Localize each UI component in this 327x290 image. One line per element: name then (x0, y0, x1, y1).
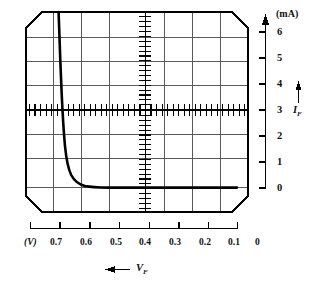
x-axis-quantity-subscript: F (143, 268, 148, 276)
y-axis-quantity-subscript: F (297, 110, 302, 118)
x-tick-label-0.5: 0.5 (110, 237, 122, 247)
y-tick-label-3: 3 (277, 105, 282, 115)
figure-root: (mA) 6 5 4 3 2 1 0 IF (V) 0.7 0.6 0.5 0.… (0, 0, 327, 290)
x-tick-label-0: 0 (255, 237, 260, 247)
current-direction-arrow (295, 81, 301, 103)
y-tick-label-2: 2 (277, 131, 282, 141)
y-tick-label-0: 0 (277, 183, 282, 193)
x-axis-quantity-symbol: V (136, 262, 143, 273)
x-tick-label-0.7: 0.7 (50, 237, 62, 247)
y-tick-label-4: 4 (277, 79, 282, 89)
x-axis-unit-label: (V) (24, 237, 37, 247)
y-tick-label-1: 1 (277, 157, 282, 167)
x-tick-label-0.1: 0.1 (228, 237, 240, 247)
y-axis-quantity-label: IF (293, 105, 302, 119)
x-tick-label-0.2: 0.2 (199, 237, 211, 247)
x-scale-ruler (30, 222, 238, 229)
x-axis-quantity-label: VF (136, 263, 148, 277)
y-tick-label-5: 5 (277, 53, 282, 63)
y-scale-ruler (259, 14, 269, 189)
y-axis-unit-label: (mA) (276, 9, 298, 19)
voltage-direction-arrow (105, 266, 130, 273)
x-tick-label-0.4: 0.4 (139, 237, 151, 247)
x-tick-label-0.6: 0.6 (80, 237, 92, 247)
x-tick-label-0.3: 0.3 (169, 237, 181, 247)
y-tick-label-6: 6 (277, 27, 282, 37)
